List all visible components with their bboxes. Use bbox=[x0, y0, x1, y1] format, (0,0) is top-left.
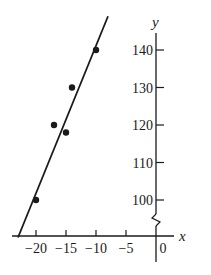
y-tick-label: 110 bbox=[133, 156, 153, 171]
x-tick-label: −5 bbox=[119, 241, 134, 256]
data-point bbox=[33, 197, 39, 203]
x-axis-label: x bbox=[178, 228, 186, 244]
data-point bbox=[51, 122, 57, 128]
data-point bbox=[93, 47, 99, 53]
x-tick-label: −20 bbox=[25, 241, 47, 256]
y-tick-label: 140 bbox=[132, 43, 153, 58]
x-tick-label: 0 bbox=[160, 241, 167, 256]
y-tick-label: 120 bbox=[132, 118, 153, 133]
y-tick-label: 100 bbox=[132, 193, 153, 208]
data-points bbox=[33, 47, 99, 203]
chart-canvas: −20−15−10−50 100110120130140 x y bbox=[0, 0, 211, 275]
y-axis-label: y bbox=[150, 14, 159, 30]
x-tick-label: −10 bbox=[85, 241, 107, 256]
x-axis: −20−15−10−50 bbox=[12, 230, 174, 256]
y-tick-label: 130 bbox=[132, 81, 153, 96]
data-point bbox=[69, 84, 75, 90]
axis-break-icon bbox=[152, 214, 160, 226]
x-tick-label: −15 bbox=[55, 241, 77, 256]
data-point bbox=[63, 129, 69, 135]
y-axis: 100110120130140 bbox=[132, 33, 164, 262]
